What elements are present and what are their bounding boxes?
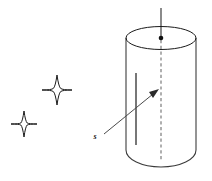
figure-canvas: s: [0, 0, 212, 181]
star-lower: [11, 111, 37, 137]
axis-center-point: [159, 36, 164, 41]
spin-vector-arrow-shaft: [104, 94, 153, 134]
cylinder-diagram: s: [0, 0, 212, 181]
spin-vector-label: s: [92, 132, 96, 141]
star-upper: [42, 75, 72, 105]
